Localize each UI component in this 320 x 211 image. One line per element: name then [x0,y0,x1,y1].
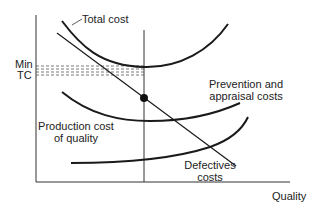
production-label: Production cost of quality [36,120,116,144]
tc-label: TC [17,69,32,81]
production-label-line1: Production cost [36,120,116,132]
prevention-label: Prevention and appraisal costs [192,78,300,102]
defectives-label-line2: costs [175,171,245,183]
prevention-label-line2: appraisal costs [192,90,300,102]
total-cost-leader [72,19,82,25]
total-cost-label: Total cost [82,13,128,25]
defectives-label: Defectives costs [175,159,245,183]
x-axis-label: Quality [272,190,306,202]
defectives-label-line1: Defectives [175,159,245,171]
prevention-label-line1: Prevention and [192,78,300,90]
production-label-line2: of quality [36,132,116,144]
min-tc-dashed-lines [36,66,144,75]
intersection-dot [140,94,148,102]
quality-cost-diagram [0,0,320,211]
total-cost-curve [62,21,228,67]
